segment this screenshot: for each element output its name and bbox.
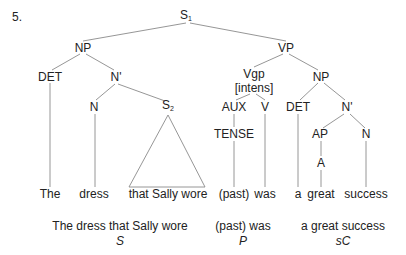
branch-nbar2-ap [323,114,344,128]
node-tense: TENSE [214,127,254,141]
function-phrase-subject: The dress that Sally wore [52,219,187,233]
node-vgp-feature: [intens] [235,81,274,95]
branch-vp-np [289,54,318,70]
branch-nbar-n [96,84,115,100]
node-n-subject: N [90,100,99,114]
function-role-subject: S [116,234,124,248]
function-role-predicator: P [239,234,247,248]
node-nbar-subject: N' [111,70,122,84]
branch-s1-vp [190,23,286,41]
function-role-complement: sC [336,234,351,248]
example-number: 5. [12,10,22,24]
node-s1-label: S [180,8,188,22]
branch-np2-det [300,83,318,100]
leaf-success: success [344,187,387,201]
branch-np-det [52,54,80,70]
function-phrase-complement: a great success [301,219,385,233]
node-np-subject: NP [75,41,92,55]
node-nbar-complement: N' [342,100,353,114]
node-s1-subscript: 1 [188,15,192,22]
node-s2: S2 [162,98,174,116]
node-n-complement: N [362,127,371,141]
branch-vp-vgp [254,54,283,67]
leaf-was: was [254,187,275,201]
node-aux: AUX [222,100,247,114]
branch-nbar-s2 [118,84,165,101]
leaf-great: great [307,187,334,201]
leaf-past: (past) [219,187,250,201]
branch-nbar2-n [350,114,365,128]
node-np-complement: NP [313,70,330,84]
leaf-a: a [295,187,302,201]
node-vgp: Vgp [243,67,264,81]
syntax-tree-diagram: 5. S1 NP VP DET N' N S2 Vgp [intens] NP … [0,0,406,255]
node-a: A [317,156,325,170]
triangle-s2 [129,115,205,187]
node-s1: S1 [180,8,192,26]
leaf-relative-clause: that Sally wore [129,187,208,201]
function-phrase-predicator: (past) was [215,219,270,233]
node-det-subject: DET [38,70,62,84]
leaf-the: The [40,187,61,201]
node-vp: VP [278,41,294,55]
node-s2-label: S [162,98,170,112]
branch-np-nbar [86,54,114,70]
branch-np2-nbar [324,83,345,100]
branch-s1-np [83,23,186,41]
leaf-dress: dress [79,187,108,201]
node-v: V [261,100,269,114]
node-s2-subscript: 2 [170,105,174,112]
node-ap: AP [312,127,328,141]
tree-branches [0,0,406,255]
node-det-complement: DET [286,100,310,114]
